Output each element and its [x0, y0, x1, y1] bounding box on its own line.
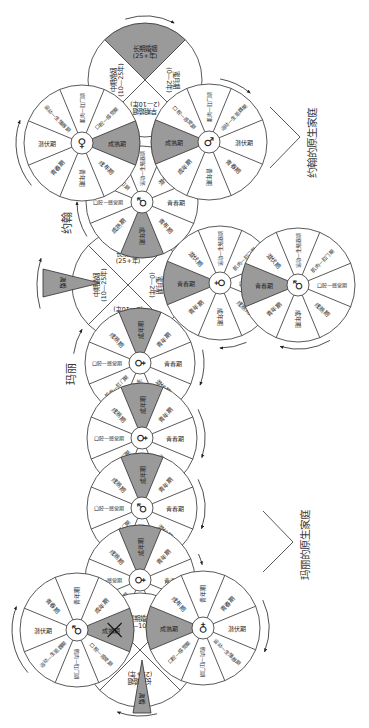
- life-stage-label: 成年期: [139, 396, 147, 414]
- marriage-stage-label: 长期婚姻(25+年): [133, 44, 157, 60]
- female-symbol-icon: ♀: [213, 279, 227, 288]
- life-stage-label: 成熟期: [160, 625, 178, 633]
- marriage-stage-years: (10—25年): [99, 268, 108, 302]
- mary-family-title: 玛丽的原生家庭: [299, 509, 311, 580]
- life-stage-label: 成熟期: [165, 139, 183, 147]
- life-stage-label: 成年期: [138, 227, 146, 245]
- female-symbol-icon: ♀: [133, 359, 147, 368]
- life-stage-label: 成年期: [137, 538, 145, 556]
- life-stage-label: 潜伏期: [228, 625, 246, 633]
- life-stage-label: 青春期: [177, 280, 195, 288]
- wheel-child-2: ♂口腔—感觉期肌肉—肛门期运动—生殖器期潜伏期青春期青年期成年期成熟期: [241, 228, 355, 342]
- male-symbol-icon: ♂: [135, 503, 149, 514]
- marriage-stage-label: 中期婚姻(10—25年): [92, 268, 108, 302]
- life-stage-label: 肌肉—肛门期: [206, 92, 213, 122]
- female-symbol-icon: ♀: [199, 621, 208, 635]
- life-stage-label: 口腔—感觉期: [94, 505, 124, 512]
- mary-name-label: 玛丽: [65, 363, 78, 385]
- marriage-stage-years: (0—2年): [165, 67, 174, 93]
- male-symbol-icon: ♂: [135, 197, 149, 208]
- life-stage-label: 肌肉—肛门期: [79, 93, 86, 123]
- john-name-label: 约翰: [60, 212, 74, 234]
- male-symbol-icon: ♂: [204, 135, 215, 149]
- life-stage-label: 成年期: [294, 310, 302, 328]
- wheel-mary-mother: ♀口腔—感觉期肌肉—肛门期运动—生殖器期潜伏期青春期青年期成年期成熟期: [146, 571, 260, 685]
- life-stage-label: 口腔—感觉期: [93, 199, 123, 206]
- life-stage-label: 潜伏期: [34, 627, 52, 635]
- female-symbol-icon: ♀: [135, 434, 149, 443]
- life-stage-label: 青春期: [255, 282, 273, 290]
- life-stage-label: 成年期: [216, 308, 224, 326]
- john-family-title: 约翰的原生家庭: [306, 107, 318, 178]
- male-symbol-icon: ♂: [70, 625, 84, 636]
- event-label: 离婚: [59, 277, 67, 289]
- male-symbol-icon: ♂: [291, 280, 305, 291]
- life-stage-label: 口腔—感觉期: [94, 435, 124, 442]
- marriage-stage-label: 蜜月期(0—2年): [148, 272, 164, 298]
- life-stage-label: 潜伏期: [235, 139, 253, 147]
- life-stage-label: 运动—生殖器期: [295, 233, 302, 268]
- wheel-mary-father: ♂口腔—感觉期肌肉—肛门期运动—生殖器期潜伏期青春期青年期成年期成熟期: [20, 573, 134, 687]
- life-stage-label: 运动—生殖器期: [139, 151, 146, 186]
- life-stage-label: 成年期: [139, 466, 147, 484]
- wheel-john-mother: ♀口腔—感觉期肌肉—肛门期运动—生殖器期潜伏期青春期青年期成年期成熟期: [24, 85, 140, 201]
- event-label: 离婚: [138, 693, 146, 705]
- life-stage-label: 青春期: [164, 360, 182, 368]
- life-stage-label: 口腔—感觉期: [317, 282, 347, 289]
- life-stage-label: 青春期: [166, 505, 184, 513]
- marriage-stage-label: 早期婚姻(2—10年): [130, 100, 160, 116]
- life-stage-label: 青春期: [167, 199, 185, 207]
- marriage-stage-label: 蜜月期(0—2年): [165, 67, 181, 93]
- life-stage-label: 运动—生殖器期: [217, 231, 224, 266]
- life-stage-label: 口腔—感觉期: [92, 360, 122, 367]
- life-stage-label: 青春期: [166, 435, 184, 443]
- life-stage-label: 潜伏期: [38, 140, 56, 148]
- marriage-stage-label: 中期婚姻(10—25年): [109, 63, 125, 97]
- life-stage-label: 青年期: [200, 585, 208, 603]
- marriage-stage-years: (10—25年): [116, 63, 125, 97]
- wheel-john-father: ♂口腔—感觉期肌肉—肛门期运动—生殖器期潜伏期青春期青年期成年期成熟期: [151, 84, 267, 200]
- life-stage-label: 青年期: [78, 169, 86, 187]
- life-stage-label: 肌肉—肛门期: [199, 647, 206, 677]
- life-stage-label: 肌肉—肛门期: [73, 649, 80, 679]
- marriage-stage-years: (25+年): [133, 51, 157, 60]
- marriage-stage-years: (2—10年): [130, 100, 160, 109]
- life-stage-label: 青年期: [205, 168, 213, 186]
- female-symbol-icon: ♀: [78, 136, 87, 150]
- life-stage-label: 青年期: [74, 587, 82, 605]
- marriage-stage-years: (0—2年): [148, 272, 157, 298]
- family-life-cycle-diagram: 蜜月期(0—2年)早期婚姻(2—10年)中期婚姻(10—25年)长期婚姻(25+…: [0, 0, 369, 728]
- life-stage-label: 成年期: [137, 321, 145, 339]
- life-stage-label: 成熟期: [108, 140, 126, 148]
- female-symbol-icon: ♀: [133, 576, 147, 585]
